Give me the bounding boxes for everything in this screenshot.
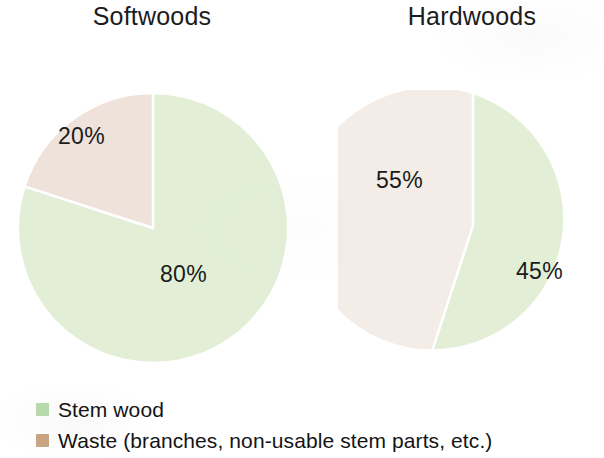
legend-item-stem-wood: Stem wood <box>36 394 596 425</box>
softwoods-chart-title: Softwoods <box>52 2 252 31</box>
pie-charts-figure: Softwoods 20% 80% Hardwoods 55% 45% Stem… <box>0 0 604 458</box>
softwoods-pie-chart <box>15 90 291 366</box>
softwoods-stem-wood-percentage-label: 80% <box>160 261 207 288</box>
hardwoods-chart-title: Hardwoods <box>372 2 572 31</box>
hardwoods-waste-percentage-label: 55% <box>376 167 423 194</box>
softwoods-waste-percentage-label: 20% <box>58 123 105 150</box>
waste-swatch-icon <box>36 434 49 447</box>
hardwoods-stem-wood-percentage-label: 45% <box>516 258 563 285</box>
legend-label-stem-wood: Stem wood <box>58 398 164 422</box>
legend-label-waste: Waste (branches, non-usable stem parts, … <box>58 429 492 453</box>
hardwoods-pie-chart <box>338 90 604 360</box>
stem-wood-swatch-icon <box>36 403 49 416</box>
legend-item-waste: Waste (branches, non-usable stem parts, … <box>36 425 596 456</box>
chart-legend: Stem wood Waste (branches, non-usable st… <box>36 394 596 456</box>
